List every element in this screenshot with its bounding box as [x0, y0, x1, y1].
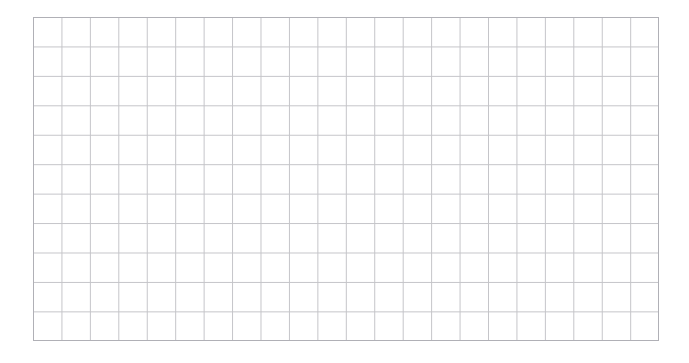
grid-canvas	[0, 0, 689, 363]
grid-plot-area	[33, 17, 659, 341]
